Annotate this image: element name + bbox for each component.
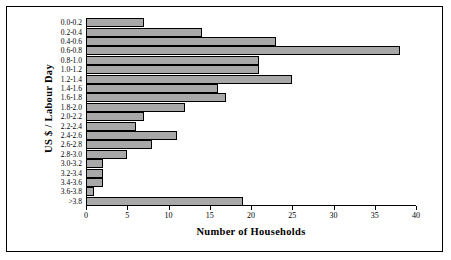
x-tick-mark <box>416 206 417 210</box>
bar <box>86 75 292 84</box>
bar-row <box>86 197 416 206</box>
x-tick-label: 20 <box>236 211 266 220</box>
bar-row <box>86 112 416 121</box>
bar <box>86 56 259 65</box>
x-tick-label: 15 <box>195 211 225 220</box>
bar-row <box>86 28 416 37</box>
bar-row <box>86 150 416 159</box>
bar-row <box>86 140 416 149</box>
y-tick-label: 3.6-3.8 <box>24 187 82 196</box>
bar <box>86 159 103 168</box>
y-tick-label: 1.8-2.0 <box>24 103 82 112</box>
x-tick-mark <box>127 206 128 210</box>
bar <box>86 103 185 112</box>
y-tick-label: 2.6-2.8 <box>24 140 82 149</box>
y-tick-label: 3.4-3.6 <box>24 178 82 187</box>
bar <box>86 131 177 140</box>
x-tick-mark <box>169 206 170 210</box>
bar <box>86 187 94 196</box>
bar <box>86 178 103 187</box>
bar <box>86 93 226 102</box>
bar <box>86 18 144 27</box>
bar-row <box>86 56 416 65</box>
bar-row <box>86 46 416 55</box>
bar <box>86 112 144 121</box>
bar <box>86 122 136 131</box>
x-tick-mark <box>292 206 293 210</box>
bar-row <box>86 18 416 27</box>
y-tick-label: 0.2-0.4 <box>24 28 82 37</box>
x-tick-mark <box>210 206 211 210</box>
bar <box>86 37 276 46</box>
x-tick-label: 35 <box>360 211 390 220</box>
figure: US $ / Labour Day 0.0-0.20.2-0.40.4-0.60… <box>0 0 451 260</box>
bar-row <box>86 169 416 178</box>
y-tick-label: 2.8-3.0 <box>24 150 82 159</box>
bar-row <box>86 93 416 102</box>
y-tick-label: 3.2-3.4 <box>24 169 82 178</box>
bar-row <box>86 122 416 131</box>
x-tick-label: 10 <box>154 211 184 220</box>
x-tick-label: 30 <box>319 211 349 220</box>
plot-area: 0510152025303540 <box>86 18 416 206</box>
bar-row <box>86 65 416 74</box>
x-tick-mark <box>375 206 376 210</box>
bar-row <box>86 178 416 187</box>
y-tick-label: 3.0-3.2 <box>24 159 82 168</box>
y-tick-label: 1.2-1.4 <box>24 75 82 84</box>
x-tick-mark <box>334 206 335 210</box>
y-tick-label: 2.0-2.2 <box>24 112 82 121</box>
bar-row <box>86 131 416 140</box>
bar <box>86 46 400 55</box>
x-tick-mark <box>86 206 87 210</box>
bar-row <box>86 103 416 112</box>
bar <box>86 65 259 74</box>
y-tick-label: 1.6-1.8 <box>24 93 82 102</box>
y-tick-label: >3.8 <box>24 197 82 206</box>
x-tick-label: 0 <box>71 211 101 220</box>
bar-row <box>86 187 416 196</box>
y-tick-label: 0.6-0.8 <box>24 46 82 55</box>
bar-row <box>86 75 416 84</box>
y-tick-label: 2.4-2.6 <box>24 131 82 140</box>
y-axis-tick-labels: 0.0-0.20.2-0.40.4-0.60.6-0.80.8-1.01.0-1… <box>22 18 82 206</box>
y-tick-label: 2.2-2.4 <box>24 122 82 131</box>
y-tick-label: 0.4-0.6 <box>24 37 82 46</box>
bar <box>86 169 103 178</box>
y-tick-label: 0.0-0.2 <box>24 18 82 27</box>
x-tick-label: 25 <box>277 211 307 220</box>
bar <box>86 197 243 206</box>
y-tick-label: 0.8-1.0 <box>24 56 82 65</box>
bar-row <box>86 37 416 46</box>
bar-row <box>86 84 416 93</box>
bar-row <box>86 159 416 168</box>
x-tick-mark <box>251 206 252 210</box>
bar <box>86 150 127 159</box>
y-tick-label: 1.0-1.2 <box>24 65 82 74</box>
y-tick-label: 1.4-1.6 <box>24 84 82 93</box>
x-tick-label: 5 <box>112 211 142 220</box>
x-axis-title: Number of Households <box>86 226 416 237</box>
x-tick-label: 40 <box>401 211 431 220</box>
bar <box>86 28 202 37</box>
bar <box>86 84 218 93</box>
bar <box>86 140 152 149</box>
